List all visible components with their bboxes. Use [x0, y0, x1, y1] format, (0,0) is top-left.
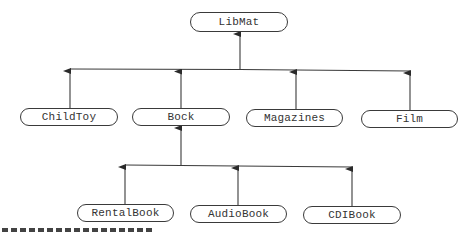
node-libmat: LibMat [190, 12, 288, 32]
node-bock: Bock [132, 108, 230, 126]
node-label: Magazines [264, 112, 325, 124]
node-label: CDIBook [328, 209, 376, 221]
node-film: Film [361, 110, 458, 128]
node-label: Film [396, 113, 423, 125]
node-cdibook: CDIBook [303, 206, 401, 224]
level1-bus [70, 69, 410, 71]
node-magazines: Magazines [246, 109, 343, 127]
caption-ink-fragment [2, 228, 152, 232]
node-label: RentalBook [91, 207, 159, 219]
node-label: Bock [167, 111, 194, 123]
node-childtoy: ChildToy [20, 108, 118, 126]
root-connector-group [70, 34, 410, 110]
level2-bus [125, 165, 352, 167]
node-label: LibMat [219, 16, 260, 28]
bock-connector-group [125, 128, 352, 206]
class-hierarchy-diagram: LibMat ChildToy Bock Magazines Film Rent… [0, 0, 470, 232]
node-audiobook: AudioBook [190, 205, 287, 223]
node-label: ChildToy [42, 111, 96, 123]
node-rentalbook: RentalBook [77, 204, 174, 222]
node-label: AudioBook [208, 208, 269, 220]
figure-caption-clipped [0, 226, 160, 232]
